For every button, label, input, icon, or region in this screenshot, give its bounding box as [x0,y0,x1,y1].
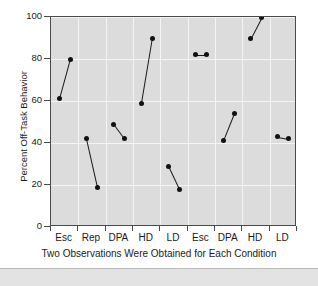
data-point-obs2 [122,136,127,141]
y-axis-tick [44,16,50,17]
data-segment [86,139,98,188]
gridline-horizontal [51,101,295,102]
x-axis-tick [159,226,160,231]
data-point-obs2 [259,16,264,20]
data-point-obs1 [193,52,198,57]
y-axis-tick-label: 0 [2,221,42,231]
x-axis-tick [77,226,78,231]
x-axis-tick [214,226,215,231]
y-axis-tick [44,142,50,143]
gridline-vertical [78,17,79,225]
x-axis-tick [132,226,133,231]
data-segment [168,166,180,190]
data-point-obs1 [139,101,144,106]
footer-strip [0,268,318,286]
x-axis-tick [241,226,242,231]
data-point-obs2 [286,136,291,141]
gridline-vertical [215,17,216,225]
data-point-obs2 [232,111,237,116]
gridline-vertical [106,17,107,225]
data-point-obs2 [150,36,155,41]
data-segment [59,59,71,99]
gridline-vertical [160,17,161,225]
gridline-horizontal [51,59,295,60]
data-point-obs1 [84,136,89,141]
data-point-obs2 [177,187,182,192]
data-segment [251,17,263,38]
data-point-obs2 [68,57,73,62]
y-axis-tick [44,100,50,101]
data-point-obs1 [248,36,253,41]
data-point-obs2 [204,52,209,57]
data-point-obs2 [95,185,100,190]
x-axis-tick [105,226,106,231]
x-axis-tick-label: LD [262,233,302,243]
chart-container: 020406080100 EscRepDPAHDLDEscDPAHDLD Two… [0,0,318,268]
gridline-horizontal [51,185,295,186]
x-axis-tick [50,226,51,231]
data-segment [223,114,235,142]
data-segment [141,38,153,103]
plot-area [50,16,296,226]
x-axis-tick [269,226,270,231]
gridline-vertical [133,17,134,225]
x-axis-tick [296,226,297,231]
y-axis-tick [44,58,50,59]
y-axis-tick-label: 100 [2,11,42,21]
x-axis-tick [187,226,188,231]
x-axis-title: Two Observations Were Obtained for Each … [0,248,318,259]
y-axis-title: Percent Off-Task Behavior [18,42,29,212]
gridline-vertical [188,17,189,225]
data-point-obs1 [166,164,171,169]
gridline-vertical [242,17,243,225]
y-axis-tick [44,184,50,185]
gridline-vertical [270,17,271,225]
